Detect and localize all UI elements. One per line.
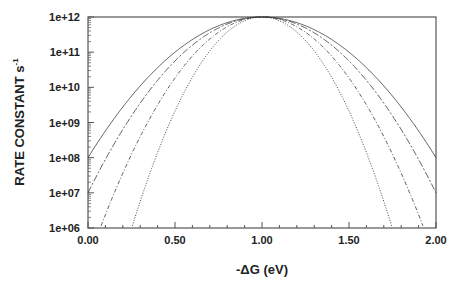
curve-3 <box>101 17 423 226</box>
y-axis-title-superscript: -1 <box>11 58 20 66</box>
x-axis-title: -ΔG (eV) <box>236 262 288 277</box>
y-tick-label: 1e+09 <box>49 117 80 129</box>
y-tick-label: 1e+10 <box>49 81 80 93</box>
x-tick-label: 1.00 <box>251 234 272 246</box>
y-tick-label: 1e+08 <box>49 152 80 164</box>
y-axis-title-text: RATE CONSTANT s <box>12 65 27 185</box>
y-tick-label: 1e+07 <box>49 187 80 199</box>
curve-4 <box>132 17 391 226</box>
curve-1 <box>88 17 436 158</box>
x-tick-label: 0.50 <box>164 234 185 246</box>
y-tick-label: 1e+06 <box>49 222 80 234</box>
y-tick-label: 1e+12 <box>49 11 80 23</box>
curves <box>88 17 436 226</box>
x-tick-label: 1.50 <box>338 234 359 246</box>
curve-2 <box>88 17 436 193</box>
rate-constant-chart: 1e+061e+071e+081e+091e+101e+111e+12 0.00… <box>0 0 463 293</box>
plot-frame <box>88 17 436 228</box>
x-tick-label: 2.00 <box>425 234 446 246</box>
plot-border <box>88 17 436 228</box>
y-axis-title: RATE CONSTANT s-1 <box>11 58 27 186</box>
x-tick-label: 0.00 <box>77 234 98 246</box>
y-tick-label: 1e+11 <box>50 46 80 58</box>
y-axis: 1e+061e+071e+081e+091e+101e+111e+12 <box>49 11 94 234</box>
